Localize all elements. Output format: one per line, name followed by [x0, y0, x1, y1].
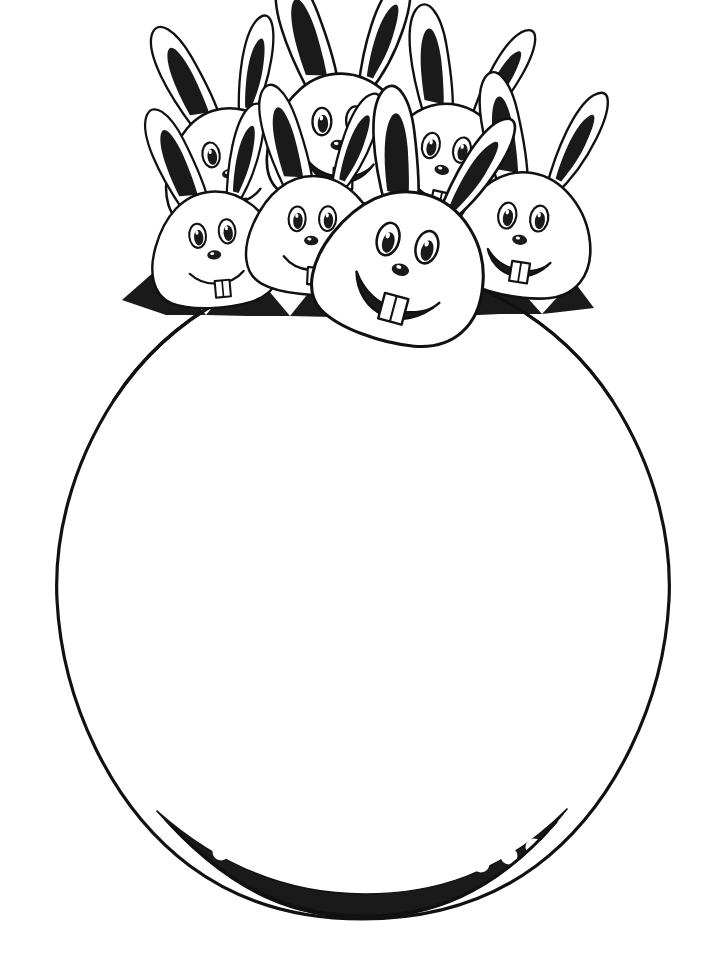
- coloring-page-canvas: Easter Egg Bunny Frame Coloring Page Bla…: [0, 0, 716, 975]
- cracked-easter-egg: [57, 258, 670, 919]
- easter-egg-bunny-illustration: Easter Egg Bunny Frame Coloring Page Bla…: [0, 0, 716, 975]
- egg-outline: [57, 262, 670, 919]
